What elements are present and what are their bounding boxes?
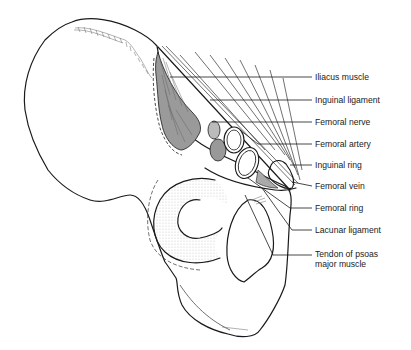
iliac-crest-hatching: [75, 28, 152, 78]
label-iliacus-muscle: Iliacus muscle: [315, 72, 369, 82]
label-femoral-vein: Femoral vein: [315, 181, 365, 191]
label-inguinal-ring: Inguinal ring: [315, 160, 362, 170]
femoral-nerve-shape: [208, 121, 220, 139]
label-femoral-artery: Femoral artery: [315, 139, 371, 149]
label-femoral-nerve: Femoral nerve: [315, 117, 370, 127]
label-inguinal-ligament: Inguinal ligament: [315, 95, 380, 105]
label-femoral-ring: Femoral ring: [315, 203, 363, 213]
label-lacunar-ligament: Lacunar ligament: [315, 225, 381, 235]
iliacus-muscle-shape: [156, 52, 201, 150]
anatomy-diagram: [0, 0, 411, 350]
label-psoas-tendon: Tendon of psoas major muscle: [315, 249, 378, 269]
